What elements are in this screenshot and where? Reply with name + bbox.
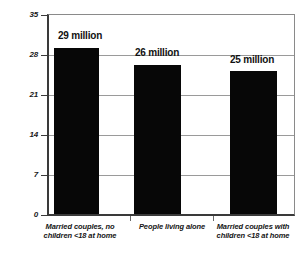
category-label-3: Married couples with children <18 at hom…: [201, 222, 305, 241]
ytick-label-14: 14: [8, 131, 38, 139]
bar-chart: 35 28 21 14 7 0 29 million 26 million 25…: [0, 0, 308, 256]
ytick-label-35: 35: [8, 11, 38, 19]
ytick-label-0: 0: [8, 211, 38, 219]
bar-married-couples-no-children[interactable]: [54, 48, 99, 214]
ytick-mark-7: [41, 175, 47, 176]
value-label-bar-2: 26 million: [117, 48, 197, 58]
bar-people-living-alone[interactable]: [134, 65, 181, 214]
bar-married-couples-with-children[interactable]: [230, 71, 277, 214]
ytick-mark-14: [41, 135, 47, 136]
ytick-mark-21: [41, 95, 47, 96]
ytick-label-28: 28: [8, 51, 38, 59]
xtick-sep-2: [213, 216, 214, 221]
category-label-3-line-1: Married couples with: [201, 222, 305, 231]
xtick-sep-1: [130, 216, 131, 221]
ytick-mark-35: [41, 15, 47, 16]
category-label-1-line-2: children <18 at home: [28, 231, 132, 240]
value-label-bar-1: 29 million: [40, 31, 120, 41]
ytick-mark-0: [41, 215, 47, 216]
category-label-3-line-2: children <18 at home: [201, 231, 305, 240]
ytick-label-7: 7: [8, 171, 38, 179]
plot-area: [47, 14, 295, 216]
category-label-1-line-1: Married couples, no: [28, 222, 132, 231]
category-label-1: Married couples, no children <18 at home: [28, 222, 132, 241]
ytick-mark-28: [41, 55, 47, 56]
ytick-label-21: 21: [8, 91, 38, 99]
value-label-bar-3: 25 million: [212, 55, 292, 65]
